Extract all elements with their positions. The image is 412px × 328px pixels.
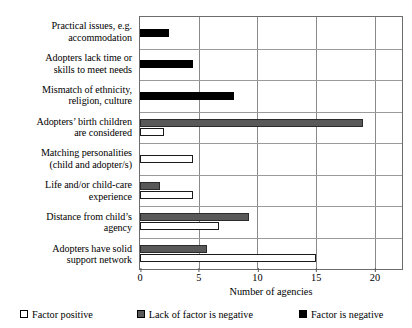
bar-group bbox=[140, 17, 402, 49]
bar-group bbox=[140, 80, 402, 112]
x-axis-ticks: 05101520 bbox=[139, 272, 403, 286]
category-label: Adopters’ birth childrenare considered bbox=[0, 111, 136, 143]
category-label-line: Adopters lack time or bbox=[45, 52, 132, 64]
bar-group bbox=[140, 49, 402, 81]
category-label-line: Adopters’ birth children bbox=[36, 116, 132, 128]
bar-positive bbox=[140, 191, 193, 199]
bar-negative bbox=[140, 92, 234, 100]
category-label-line: are considered bbox=[74, 127, 132, 139]
legend-label: Factor is negative bbox=[311, 309, 383, 320]
category-label-line: Practical issues, e.g. bbox=[52, 20, 132, 32]
x-tick-label: 15 bbox=[311, 272, 321, 284]
category-label: Distance from child’sagency bbox=[0, 207, 136, 239]
legend-item-positive: Factor positive bbox=[20, 309, 93, 320]
category-label: Life and/or child-careexperience bbox=[0, 175, 136, 207]
x-tick-label: 0 bbox=[137, 272, 142, 284]
bar-positive bbox=[140, 222, 219, 230]
bar-lack bbox=[140, 119, 363, 127]
category-label: Mismatch of ethnicity,religion, culture bbox=[0, 80, 136, 112]
x-tick-mark bbox=[375, 268, 376, 272]
category-label-line: support network bbox=[67, 254, 132, 266]
x-axis-title: Number of agencies bbox=[139, 286, 403, 297]
x-tick-label: 5 bbox=[196, 272, 201, 284]
x-tick-mark bbox=[199, 268, 200, 272]
category-label-line: accommodation bbox=[68, 32, 132, 44]
x-tick-label: 20 bbox=[370, 272, 380, 284]
legend-item-negative: Factor is negative bbox=[299, 309, 383, 320]
legend-label: Lack of factor is negative bbox=[149, 309, 253, 320]
x-tick-label: 10 bbox=[252, 272, 262, 284]
legend-swatch-lack bbox=[137, 310, 145, 318]
category-label: Adopters have solidsupport network bbox=[0, 238, 136, 270]
bar-negative bbox=[140, 60, 193, 68]
horizontal-bar-chart: Practical issues, e.g.accommodationAdopt… bbox=[0, 0, 412, 328]
category-label: Practical issues, e.g.accommodation bbox=[0, 16, 136, 48]
bar-lack bbox=[140, 213, 249, 221]
bar-negative bbox=[140, 29, 169, 37]
x-tick-mark bbox=[140, 268, 141, 272]
category-label: Matching personalities(child and adopter… bbox=[0, 143, 136, 175]
bar-group bbox=[140, 143, 402, 175]
x-tick-mark bbox=[316, 268, 317, 272]
bar-group bbox=[140, 238, 402, 270]
category-label-line: religion, culture bbox=[68, 95, 132, 107]
category-label: Adopters lack time orskills to meet need… bbox=[0, 48, 136, 80]
category-axis-labels: Practical issues, e.g.accommodationAdopt… bbox=[0, 16, 136, 270]
category-label-line: agency bbox=[104, 222, 132, 234]
legend-label: Factor positive bbox=[32, 309, 93, 320]
category-label-line: Mismatch of ethnicity, bbox=[42, 84, 132, 96]
category-label-line: skills to meet needs bbox=[54, 64, 132, 76]
category-label-line: Distance from child’s bbox=[46, 211, 132, 223]
legend-swatch-positive bbox=[20, 310, 28, 318]
bar-positive bbox=[140, 155, 193, 163]
legend-swatch-negative bbox=[299, 310, 307, 318]
bar-group bbox=[140, 112, 402, 144]
category-label-line: experience bbox=[89, 191, 132, 203]
bar-group bbox=[140, 175, 402, 207]
x-tick-mark bbox=[257, 268, 258, 272]
category-label-line: Matching personalities bbox=[41, 147, 132, 159]
category-label-line: Adopters have solid bbox=[52, 243, 132, 255]
chart-legend: Factor positiveLack of factor is negativ… bbox=[14, 306, 406, 322]
bar-positive bbox=[140, 254, 316, 262]
plot-area bbox=[139, 16, 403, 270]
bar-lack bbox=[140, 245, 207, 253]
bar-positive bbox=[140, 128, 164, 136]
bar-group bbox=[140, 206, 402, 238]
bar-lack bbox=[140, 182, 160, 190]
legend-item-lack: Lack of factor is negative bbox=[137, 309, 253, 320]
category-label-line: (child and adopter/s) bbox=[50, 159, 132, 171]
category-label-line: Life and/or child-care bbox=[45, 179, 132, 191]
